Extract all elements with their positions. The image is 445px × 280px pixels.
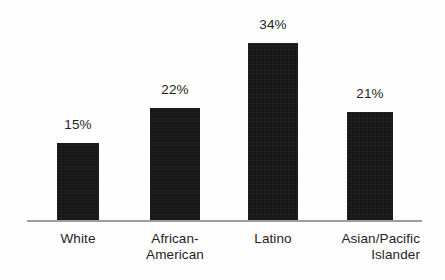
bar-asian-pacific-islander <box>347 112 393 221</box>
value-label-african-american: 22% <box>145 83 205 97</box>
x-tick-label-asian-pacific-islander-line-2: Islander <box>320 247 420 263</box>
value-label-latino: 34% <box>243 18 303 32</box>
value-label-asian-pacific-islander: 21% <box>340 87 400 101</box>
bar-african-american <box>150 108 200 221</box>
x-tick-label-white-line-1: White <box>48 231 108 247</box>
x-tick-label-african-american-line-1: African- <box>140 231 210 247</box>
x-tick-label-latino: Latino <box>243 231 303 247</box>
x-tick-label-asian-pacific-islander-line-1: Asian/Pacific <box>320 231 420 247</box>
x-tick-label-white: White <box>48 231 108 247</box>
bar-latino <box>248 43 298 221</box>
x-axis-line <box>27 220 422 222</box>
value-label-white: 15% <box>48 118 108 132</box>
x-tick-label-asian-pacific-islander: Asian/Pacific Islander <box>320 231 420 263</box>
bar-white <box>57 143 99 221</box>
bar-chart: 15% 22% 34% 21% White African- American … <box>0 0 445 280</box>
x-tick-label-latino-line-1: Latino <box>243 231 303 247</box>
plot-area: 15% 22% 34% 21% <box>0 0 445 221</box>
x-tick-label-african-american-line-2: American <box>140 247 210 263</box>
x-tick-label-african-american: African- American <box>140 231 210 263</box>
